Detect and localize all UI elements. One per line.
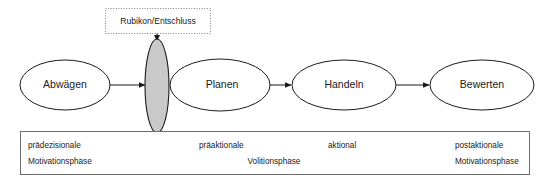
node-abwaegen-label: Abwägen — [43, 78, 87, 90]
node-bewerten-label: Bewerten — [460, 78, 505, 90]
phase-legend: prädezisionale Motivationsphase präaktio… — [21, 132, 530, 175]
node-bewerten[interactable]: Bewerten — [430, 60, 534, 110]
node-planen[interactable]: Planen — [170, 59, 270, 111]
phase-postaktionale-line2: Motivationsphase — [455, 157, 519, 166]
phase-postaktionale-line1: postaktionale — [455, 141, 504, 150]
node-planen-label: Planen — [206, 78, 239, 90]
phase-legend-box — [21, 132, 530, 175]
rubicon-model-diagram: Rubikon/Entschluss Abwägen Planen Handel… — [0, 0, 550, 183]
node-rubikon-shape[interactable] — [145, 39, 169, 133]
phase-praeaktionale-line1: präaktionale — [199, 141, 244, 150]
node-handeln-label: Handeln — [324, 78, 363, 90]
rubikon-callout: Rubikon/Entschluss — [106, 9, 211, 34]
node-abwaegen[interactable]: Abwägen — [20, 60, 110, 110]
node-handeln[interactable]: Handeln — [292, 60, 396, 110]
rubikon-callout-label: Rubikon/Entschluss — [120, 16, 195, 26]
phase-volitionsphase-line2: Volitionsphase — [248, 157, 301, 166]
phase-praedezisionale-line2: Motivationsphase — [28, 157, 92, 166]
node-rubikon-threshold[interactable] — [145, 39, 169, 133]
phase-aktional-line1: aktional — [328, 141, 356, 150]
diagram-canvas: Rubikon/Entschluss Abwägen Planen Handel… — [0, 0, 550, 183]
phase-praedezisionale-line1: prädezisionale — [28, 141, 81, 150]
